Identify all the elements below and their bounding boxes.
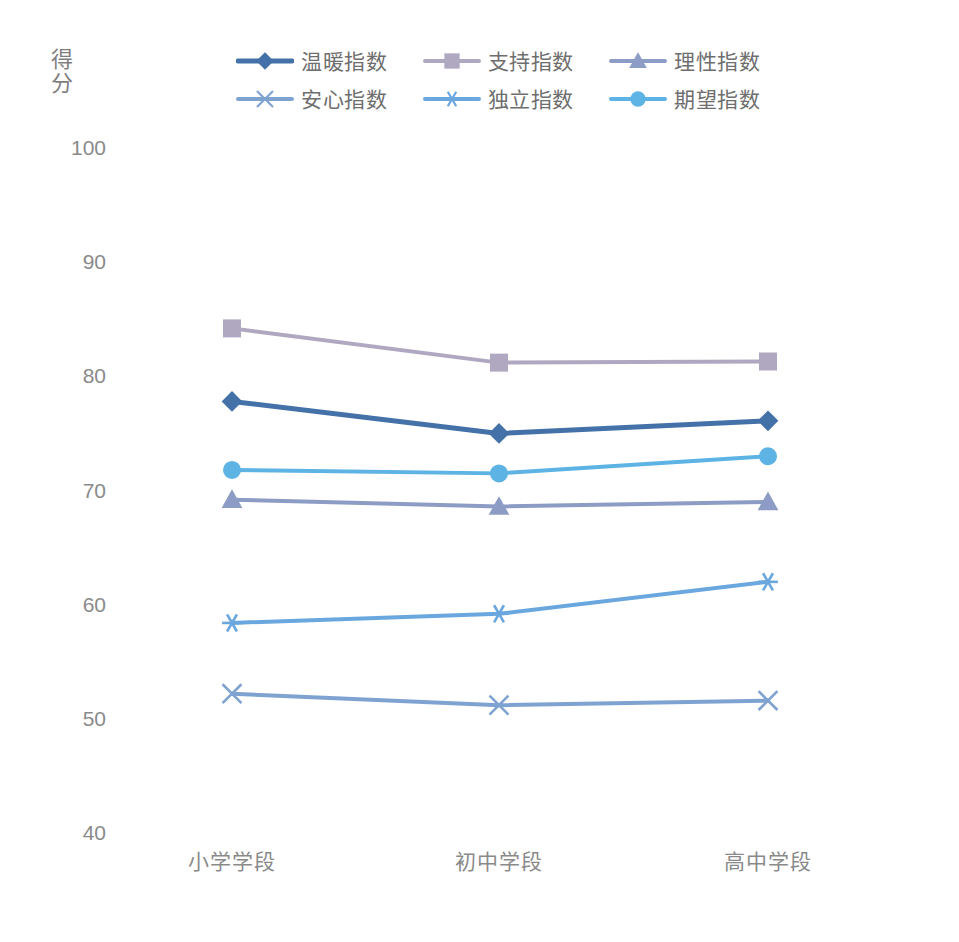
legend-item-理性指数[interactable]: 理性指数 — [609, 46, 796, 76]
data-point-diamond — [222, 391, 243, 412]
series-2 — [222, 489, 779, 514]
data-point-square — [223, 319, 241, 337]
data-point-asterisk — [489, 605, 509, 622]
x-axis-tick-label: 初中学段 — [399, 851, 599, 872]
x-axis-tick-label: 小学学段 — [132, 851, 332, 872]
series-5 — [223, 447, 777, 482]
y-axis-tick-label: 100 — [46, 137, 106, 158]
data-point-asterisk — [758, 573, 778, 590]
legend-marker-icon — [236, 88, 294, 110]
legend-item-支持指数[interactable]: 支持指数 — [423, 46, 610, 76]
data-point-square — [759, 352, 777, 370]
legend-marker-icon — [236, 50, 294, 72]
y-axis-tick-label: 70 — [46, 480, 106, 501]
legend-marker-icon — [423, 88, 481, 110]
data-point-diamond — [256, 52, 274, 70]
data-point-diamond — [489, 423, 510, 444]
y-axis-title: 得分 — [48, 48, 70, 96]
chart-legend: 温暖指数支持指数理性指数安心指数独立指数期望指数 — [236, 46, 796, 114]
series-1 — [223, 319, 777, 371]
data-point-diamond — [758, 411, 779, 432]
data-point-square — [490, 354, 508, 372]
legend-item-label: 温暖指数 — [301, 51, 387, 72]
y-axis-tick-label: 50 — [46, 708, 106, 729]
x-axis-tick-label: 高中学段 — [668, 851, 868, 872]
plot-area — [0, 0, 959, 942]
legend-marker-icon — [609, 88, 667, 110]
legend-item-label: 理性指数 — [674, 51, 760, 72]
series-3 — [223, 684, 778, 714]
legend-item-期望指数[interactable]: 期望指数 — [609, 84, 796, 114]
y-axis-tick-label: 40 — [46, 822, 106, 843]
data-point-circle — [759, 447, 777, 465]
data-point-circle — [490, 464, 508, 482]
legend-marker-icon — [609, 50, 667, 72]
data-point-asterisk — [443, 92, 460, 107]
legend-item-温暖指数[interactable]: 温暖指数 — [236, 46, 423, 76]
data-point-circle — [631, 91, 646, 106]
line-chart: 得分 100908070605040 小学学段初中学段高中学段 温暖指数支持指数… — [0, 0, 959, 942]
legend-marker-icon — [423, 50, 481, 72]
legend-item-label: 期望指数 — [674, 89, 760, 110]
y-axis-tick-label: 90 — [46, 251, 106, 272]
legend-item-安心指数[interactable]: 安心指数 — [236, 84, 423, 114]
y-axis-tick-label: 80 — [46, 365, 106, 386]
series-0 — [222, 391, 779, 444]
data-point-square — [444, 53, 459, 68]
series-4 — [222, 573, 778, 631]
data-point-asterisk — [222, 614, 242, 631]
legend-item-独立指数[interactable]: 独立指数 — [423, 84, 610, 114]
legend-item-label: 支持指数 — [488, 51, 574, 72]
legend-item-label: 独立指数 — [488, 89, 574, 110]
y-axis-tick-label: 60 — [46, 594, 106, 615]
data-point-circle — [223, 461, 241, 479]
legend-item-label: 安心指数 — [301, 89, 387, 110]
